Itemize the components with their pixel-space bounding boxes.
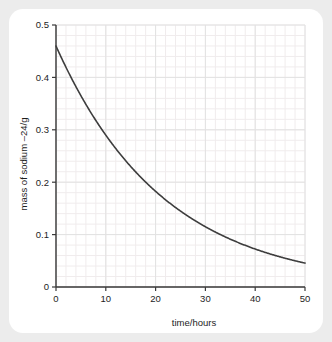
- decay-chart: 01020304050 00.10.20.30.40.5 time/hours …: [9, 9, 323, 333]
- y-axis-tick-label: 0.4: [36, 72, 49, 83]
- x-axis-tick-label: 10: [101, 293, 112, 304]
- y-axis-tick-label: 0.2: [36, 177, 49, 188]
- x-axis-tick-label: 50: [300, 293, 311, 304]
- y-axis-title: mass of sodium –24/g: [18, 118, 29, 211]
- axis-ticks: [52, 25, 305, 291]
- axis-lines: [56, 25, 305, 287]
- major-gridlines: [56, 25, 305, 287]
- x-axis-title: time/hours: [172, 317, 217, 328]
- x-axis-tick-label: 40: [250, 293, 261, 304]
- chart-card: 01020304050 00.10.20.30.40.5 time/hours …: [9, 9, 323, 333]
- x-axis-tick-label: 30: [200, 293, 211, 304]
- y-axis-tick-label: 0.3: [36, 124, 49, 135]
- data-series-sodium-24: [56, 46, 305, 263]
- screenshot-root: 01020304050 00.10.20.30.40.5 time/hours …: [0, 0, 332, 342]
- y-axis-tick-labels: 00.10.20.30.40.5: [36, 19, 49, 292]
- x-axis-tick-label: 20: [150, 293, 161, 304]
- x-axis-tick-label: 0: [53, 293, 58, 304]
- y-axis-tick-label: 0.5: [36, 19, 49, 30]
- decay-curve: [56, 46, 305, 263]
- y-axis-tick-label: 0.1: [36, 229, 49, 240]
- y-axis-tick-label: 0: [44, 281, 49, 292]
- x-axis-tick-labels: 01020304050: [53, 293, 310, 304]
- chart-figure: 01020304050 00.10.20.30.40.5 time/hours …: [9, 9, 323, 333]
- minor-gridlines: [56, 25, 305, 287]
